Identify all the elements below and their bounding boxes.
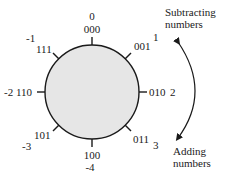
subtracting-label-line1: Subtracting — [165, 6, 216, 18]
decimal-1: 1 — [153, 31, 159, 43]
decimal-0: 0 — [89, 10, 95, 22]
decimal-minus4: -4 — [85, 161, 95, 173]
decimal-minus1: -1 — [26, 32, 35, 44]
decimal-3: 3 — [153, 139, 159, 151]
binary-110: 110 — [16, 86, 33, 98]
number-circle-diagram: 0 000 001 1 010 2 011 3 100 -4 101 -3 -2… — [0, 0, 230, 175]
direction-arrow — [178, 42, 195, 138]
binary-101: 101 — [34, 129, 51, 141]
binary-000: 000 — [84, 23, 101, 35]
number-circle — [45, 45, 139, 139]
adding-label-line2: numbers — [173, 157, 211, 169]
binary-001: 001 — [134, 40, 151, 52]
binary-100: 100 — [84, 149, 101, 161]
binary-111: 111 — [36, 43, 52, 55]
decimal-minus3: -3 — [22, 140, 32, 152]
decimal-2: 2 — [170, 86, 176, 98]
decimal-minus2: -2 — [4, 86, 13, 98]
adding-label-line1: Adding — [173, 145, 207, 157]
binary-011: 011 — [133, 133, 149, 145]
binary-010: 010 — [149, 86, 166, 98]
subtracting-label-line2: numbers — [165, 18, 203, 30]
